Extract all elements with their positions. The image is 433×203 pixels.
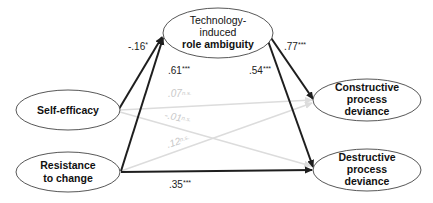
coef-rc-to-ra: .61*** (168, 65, 190, 76)
path-resistance-to-role-ambiguity (121, 38, 163, 171)
node-resistance-to-change: Resistance to change (16, 152, 120, 192)
node-role-ambiguity: Technology- induced role ambiguity (163, 8, 273, 58)
path-self-efficacy-to-destructive (120, 112, 311, 166)
self-efficacy-label: Self-efficacy (37, 104, 99, 116)
coef-ra-to-cpd: .77*** (284, 41, 306, 52)
coef-ra-to-dpd: .54*** (249, 65, 271, 76)
destructive-label-line1: Destructive (338, 151, 395, 163)
role-ambiguity-label-line3: role ambiguity (182, 38, 254, 50)
constructive-label-line3: deviance (345, 105, 390, 117)
path-diagram: Self-efficacy Resistance to change Techn… (0, 0, 433, 203)
nonsignificant-paths (120, 100, 312, 171)
coef-se-to-dpd: -.01n.s. (164, 109, 193, 125)
path-self-efficacy-to-constructive (120, 100, 312, 110)
destructive-label-line2: process (347, 163, 387, 175)
path-resistance-to-constructive (121, 103, 312, 171)
node-destructive-deviance: Destructive process deviance (313, 149, 421, 191)
node-self-efficacy: Self-efficacy (16, 90, 120, 130)
resistance-label-line1: Resistance (40, 159, 96, 171)
coef-se-to-cpd: .07n.s. (168, 88, 192, 99)
coef-se-to-ra: -.16* (128, 41, 148, 52)
resistance-label-line2: to change (43, 172, 93, 184)
role-ambiguity-label-line1: Technology- (190, 14, 247, 26)
node-constructive-deviance: Constructive process deviance (313, 79, 421, 121)
constructive-label-line1: Constructive (335, 81, 399, 93)
role-ambiguity-label-line2: induced (200, 26, 237, 38)
coef-rc-to-dpd: .35*** (169, 179, 191, 190)
path-resistance-to-destructive (121, 170, 312, 172)
destructive-label-line3: deviance (345, 175, 390, 187)
constructive-label-line2: process (347, 93, 387, 105)
